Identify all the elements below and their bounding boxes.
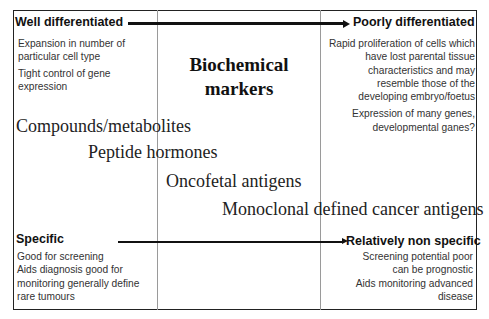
- differentiation-arrow-line: [128, 22, 344, 25]
- note-line: Aids diagnosis good for: [17, 263, 139, 276]
- note-line: Expression of many genes,: [300, 107, 475, 120]
- note-line: resemble those of the: [300, 77, 475, 90]
- note-line: expression: [18, 80, 125, 93]
- right-top-notes: Rapid proliferation of cells which have …: [300, 37, 475, 134]
- marker-class-peptide-hormones: Peptide hormones: [88, 142, 217, 163]
- left-bottom-notes: Good for screening Aids diagnosis good f…: [17, 250, 139, 303]
- marker-class-monoclonal-antigens: Monoclonal defined cancer antigens: [222, 199, 483, 220]
- marker-class-oncofetal-antigens: Oncofetal antigens: [166, 171, 301, 192]
- well-differentiated-label: Well differentiated: [15, 15, 123, 29]
- note-line: particular cell type: [18, 50, 125, 63]
- note-line: developing embryo/foetus: [300, 90, 475, 103]
- note-line: monitoring generally define: [17, 277, 139, 290]
- note-line: Screening potential poor: [300, 250, 473, 263]
- differentiation-arrow-head-icon: [343, 20, 350, 28]
- right-bottom-notes: Screening potential poor can be prognost…: [300, 250, 473, 303]
- note-line: Expansion in number of: [18, 37, 125, 50]
- note-line: Rapid proliferation of cells which: [300, 37, 475, 50]
- poorly-differentiated-label: Poorly differentiated: [353, 15, 475, 29]
- note-line: Good for screening: [17, 250, 139, 263]
- left-top-notes: Expansion in number of particular cell t…: [18, 37, 125, 93]
- relatively-non-specific-label: Relatively non specific: [346, 234, 481, 248]
- title-line-2: markers: [168, 77, 310, 101]
- marker-class-compounds-metabolites: Compounds/metabolites: [16, 116, 191, 137]
- note-line: can be prognostic: [300, 263, 473, 276]
- cut-off-caption: [0, 313, 489, 319]
- specific-label: Specific: [16, 232, 64, 246]
- note-line: have lost parental tissue: [300, 50, 475, 63]
- specificity-arrow-line: [118, 241, 343, 243]
- diagram-title: Biochemical markers: [168, 53, 310, 101]
- title-line-1: Biochemical: [168, 53, 310, 77]
- note-line: Aids monitoring advanced: [300, 277, 473, 290]
- note-line: disease: [300, 290, 473, 303]
- note-line: rare tumours: [17, 290, 139, 303]
- note-line: Tight control of gene: [18, 67, 125, 80]
- note-line: characteristics and may: [300, 64, 475, 77]
- note-line: developmental ganes?: [300, 121, 475, 134]
